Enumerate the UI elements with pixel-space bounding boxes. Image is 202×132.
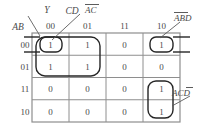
kmap-cell: 0 bbox=[48, 84, 53, 94]
annotation-abd-text: ABD bbox=[173, 13, 192, 23]
kmap-cell: 1 bbox=[159, 84, 164, 94]
kmap-cell: 1 bbox=[48, 62, 53, 72]
output-variable-label: Y bbox=[44, 5, 51, 15]
annotation-ac: AC bbox=[84, 5, 99, 16]
group-loop-a-not-c-not bbox=[36, 37, 100, 76]
kmap-canvas: Y CD AB 00 01 11 10 00 01 11 10 1 1 0 1 … bbox=[0, 0, 202, 132]
row-header-0: 00 bbox=[21, 40, 31, 50]
kmap-cell: 0 bbox=[159, 62, 164, 72]
kmap-cell: 1 bbox=[85, 62, 90, 72]
kmap-cell: 1 bbox=[159, 40, 164, 50]
kmap-cell: 0 bbox=[122, 84, 127, 94]
column-header-0: 00 bbox=[46, 21, 56, 31]
annotation-acd-barred-part: D bbox=[183, 88, 191, 98]
kmap-cell: 0 bbox=[122, 107, 127, 117]
kmap-axis-labels: Y CD AB bbox=[11, 5, 79, 32]
row-header-3: 10 bbox=[21, 107, 31, 117]
kmap-column-headers: 00 01 11 10 bbox=[46, 21, 167, 31]
leader-line-ac bbox=[52, 14, 80, 40]
kmap-cell: 0 bbox=[122, 62, 127, 72]
kmap-cell: 0 bbox=[48, 107, 53, 117]
row-header-2: 11 bbox=[21, 84, 30, 94]
annotation-acd: ACD bbox=[171, 88, 193, 99]
group-outline-ac bbox=[36, 37, 100, 76]
column-header-2: 11 bbox=[120, 21, 129, 31]
row-header-1: 01 bbox=[21, 62, 30, 72]
column-header-1: 01 bbox=[83, 21, 92, 31]
kmap-cell: 0 bbox=[85, 107, 90, 117]
kmap-cell: 0 bbox=[85, 84, 90, 94]
row-variable-label: AB bbox=[11, 22, 24, 32]
column-header-3: 10 bbox=[157, 21, 167, 31]
kmap-cell: 1 bbox=[159, 107, 164, 117]
annotation-abd: ABD bbox=[173, 13, 192, 24]
kmap-cell: 1 bbox=[48, 40, 53, 50]
annotation-acd-text: ACD bbox=[171, 88, 191, 98]
column-variable-label: CD bbox=[65, 6, 78, 16]
kmap-cell: 0 bbox=[122, 40, 127, 50]
annotation-ac-text: AC bbox=[84, 5, 97, 15]
annotation-acd-plain-part: AC bbox=[171, 88, 184, 98]
kmap-row-headers: 00 01 11 10 bbox=[21, 40, 31, 117]
kmap-cell: 1 bbox=[85, 40, 90, 50]
annotation-abd-plain-part: D bbox=[184, 13, 192, 23]
karnaugh-map: Y CD AB 00 01 11 10 00 01 11 10 1 1 0 1 … bbox=[0, 0, 202, 132]
annotation-abd-barred-part: AB bbox=[173, 13, 185, 23]
